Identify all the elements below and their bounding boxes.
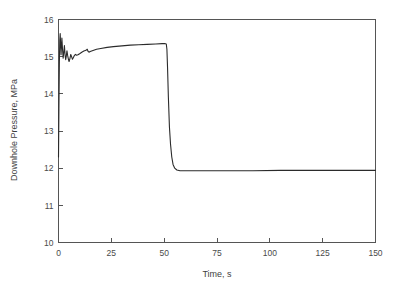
y-tick-label: 12 — [44, 163, 54, 173]
x-tick-label: 50 — [159, 248, 169, 258]
y-tick-label: 14 — [44, 89, 54, 99]
y-tick-label: 16 — [44, 15, 54, 25]
y-tick-label: 11 — [45, 201, 54, 211]
x-tick-label: 125 — [316, 248, 330, 258]
line-chart: 10111213141516 0255075100125150 Downhole… — [0, 0, 399, 289]
x-tick-label: 100 — [263, 248, 277, 258]
y-tick-label: 13 — [44, 126, 54, 136]
y-tick-label: 10 — [44, 238, 54, 248]
x-tick-label: 150 — [368, 248, 382, 258]
x-tick-label: 25 — [107, 248, 117, 258]
y-axis-title: Downhole Pressure, MPa — [9, 79, 19, 181]
x-tick-label: 75 — [212, 248, 222, 258]
x-axis-title: Time, s — [202, 269, 232, 279]
x-tick-label: 0 — [56, 248, 61, 258]
y-tick-label: 15 — [44, 52, 54, 62]
chart-figure: 10111213141516 0255075100125150 Downhole… — [0, 0, 399, 289]
